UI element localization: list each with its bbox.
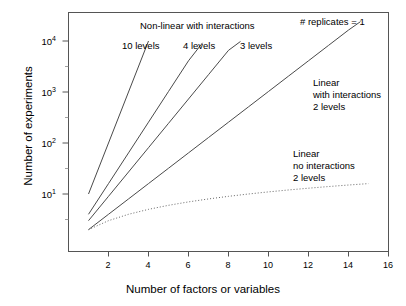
linear-no-interactions-line3: 2 levels <box>293 172 355 184</box>
replicates-note: # replicates = 1 <box>300 16 365 28</box>
ytick-exp-1: 1 <box>52 188 56 195</box>
ten-levels-label: 10 levels <box>122 40 160 52</box>
xtick-label-2: 2 <box>97 260 119 270</box>
xtick-label-16: 16 <box>377 260 399 270</box>
xtick-label-6: 6 <box>177 260 199 270</box>
plot-frame <box>69 13 389 252</box>
linear-no-interactions-line1: Linear <box>293 148 355 160</box>
xtick-label-12: 12 <box>297 260 319 270</box>
linear-with-interactions-line2: with interactions <box>313 89 381 101</box>
xtick-label-14: 14 <box>337 260 359 270</box>
linear-with-interactions-line1: Linear <box>313 77 381 89</box>
y-axis-ticks <box>63 41 69 220</box>
ytick-exp-4: 4 <box>52 35 56 42</box>
chart-figure: 104 103 102 101 2 4 6 8 10 12 14 16 Numb… <box>0 0 406 306</box>
linear-with-interactions-label: Linear with interactions 2 levels <box>313 77 381 113</box>
x-axis-title: Number of factors or variables <box>0 283 406 295</box>
x-axis-ticks <box>109 252 389 257</box>
three-levels-label: 3 levels <box>240 40 272 52</box>
linear-with-interactions-line3: 2 levels <box>313 101 381 113</box>
ytick-exp-2: 2 <box>52 137 56 144</box>
y-axis-title: Number of experiments <box>22 36 34 216</box>
xtick-label-4: 4 <box>137 260 159 270</box>
xtick-label-10: 10 <box>257 260 279 270</box>
linear-no-interactions-line2: no interactions <box>293 160 355 172</box>
nonlinear-heading: Non-linear with interactions <box>140 20 255 32</box>
xtick-label-8: 8 <box>217 260 239 270</box>
four-levels-label: 4 levels <box>183 40 215 52</box>
ytick-exp-3: 3 <box>52 86 56 93</box>
linear-no-interactions-label: Linear no interactions 2 levels <box>293 148 355 184</box>
